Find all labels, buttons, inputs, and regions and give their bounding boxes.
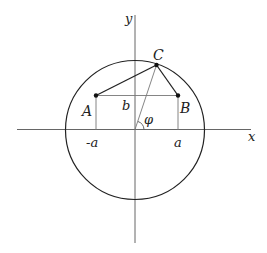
b-label: b (122, 98, 130, 113)
x-axis-label: x (248, 129, 256, 144)
point-a-dot (94, 93, 98, 97)
point-b-label: B (179, 100, 190, 116)
diagram-canvas: y x C A B b φ -a a (0, 0, 267, 253)
neg-a-tick-label: -a (86, 135, 98, 150)
segment-bc (157, 65, 179, 96)
geometry-figure: y x C A B b φ -a a (0, 0, 267, 253)
point-b-dot (176, 93, 180, 97)
y-axis-label: y (124, 11, 133, 26)
point-a-label: A (80, 103, 92, 119)
point-c-label: C (153, 47, 164, 63)
pos-a-tick-label: a (174, 135, 182, 150)
point-c-dot (154, 63, 158, 67)
angle-phi-label: φ (144, 112, 154, 127)
